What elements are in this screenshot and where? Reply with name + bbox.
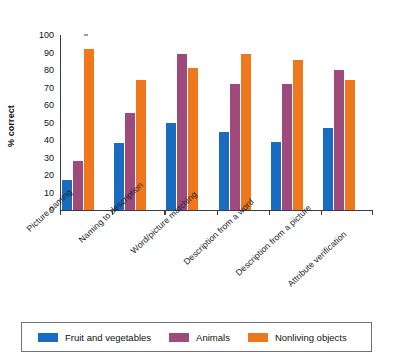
bar bbox=[230, 84, 240, 210]
x-axis-category-labels: Picture namingNaming to descriptionWord/… bbox=[0, 215, 393, 310]
y-axis-tick-label: 70 bbox=[28, 83, 54, 93]
bar bbox=[241, 54, 251, 210]
legend-item[interactable]: Fruit and vegetables bbox=[38, 332, 151, 343]
legend-color-swatch bbox=[248, 333, 268, 342]
bar bbox=[84, 49, 94, 210]
bar-group bbox=[217, 35, 269, 210]
legend-color-swatch bbox=[169, 333, 189, 342]
bar bbox=[293, 60, 303, 210]
bar bbox=[188, 68, 198, 210]
y-axis-tick-label: 90 bbox=[28, 48, 54, 58]
bar-group bbox=[321, 35, 373, 210]
legend-label: Animals bbox=[196, 332, 230, 343]
legend-color-swatch bbox=[38, 333, 58, 342]
bar bbox=[345, 80, 355, 210]
y-axis-tick-label: 50 bbox=[28, 118, 54, 128]
y-axis-tick-label: 30 bbox=[28, 153, 54, 163]
y-axis-tick-label: 20 bbox=[28, 170, 54, 180]
plot-area: % correct 1009080706050403020100 Picture… bbox=[0, 0, 393, 300]
bar bbox=[271, 142, 281, 210]
legend-label: Fruit and vegetables bbox=[65, 332, 151, 343]
chart-legend: Fruit and vegetablesAnimalsNonliving obj… bbox=[21, 322, 372, 352]
bar bbox=[73, 161, 83, 210]
legend-item[interactable]: Nonliving objects bbox=[248, 332, 347, 343]
y-axis-label: % correct bbox=[6, 86, 16, 166]
bar bbox=[166, 123, 176, 211]
bar bbox=[219, 132, 229, 210]
y-axis-tick-label: 60 bbox=[28, 100, 54, 110]
y-axis-tick-labels: 1009080706050403020100 bbox=[28, 30, 54, 210]
bar bbox=[282, 84, 292, 210]
bar-group bbox=[269, 35, 321, 210]
legend-item[interactable]: Animals bbox=[169, 332, 230, 343]
legend-label: Nonliving objects bbox=[275, 332, 347, 343]
y-axis-tick-label: 100 bbox=[28, 30, 54, 40]
bar bbox=[177, 54, 187, 210]
bars-layer bbox=[60, 35, 373, 210]
x-axis-category-label: Attribute verification bbox=[285, 229, 348, 289]
y-axis-tick-label: 40 bbox=[28, 135, 54, 145]
bar bbox=[323, 128, 333, 210]
bar-group bbox=[164, 35, 216, 210]
bar-chart-figure: % correct 1009080706050403020100 Picture… bbox=[0, 0, 393, 364]
bar-group bbox=[60, 35, 112, 210]
y-axis-tick-label: 10 bbox=[28, 188, 54, 198]
bar bbox=[334, 70, 344, 210]
y-axis-tick-label: 80 bbox=[28, 65, 54, 75]
